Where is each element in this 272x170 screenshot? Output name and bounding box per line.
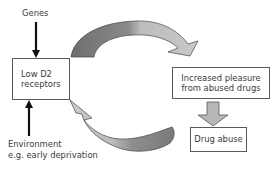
- low-d2-line2: receptors: [21, 79, 61, 90]
- curved-arrow-to-low-d2: [70, 100, 174, 151]
- genes-label: Genes: [22, 8, 48, 18]
- block-arrow-to-drug-abuse: [198, 102, 228, 126]
- environment-arrow: [25, 100, 33, 136]
- pleasure-line2: from abused drugs: [181, 83, 260, 94]
- curved-arrow-to-pleasure: [71, 21, 198, 57]
- genes-arrow: [32, 22, 40, 58]
- low-d2-receptors-box: Low D2 receptors: [12, 58, 70, 100]
- environment-example-label: e.g. early deprivation: [8, 150, 98, 160]
- pleasure-line1: Increased pleasure: [181, 73, 260, 84]
- drug-abuse-box: Drug abuse: [190, 127, 247, 152]
- diagram-canvas: Genes Low D2 receptors Increased pleasur…: [0, 0, 272, 170]
- increased-pleasure-box: Increased pleasure from abused drugs: [172, 67, 270, 99]
- environment-label: Environment: [8, 139, 61, 149]
- low-d2-line1: Low D2: [21, 69, 52, 80]
- drug-abuse-label: Drug abuse: [194, 134, 242, 145]
